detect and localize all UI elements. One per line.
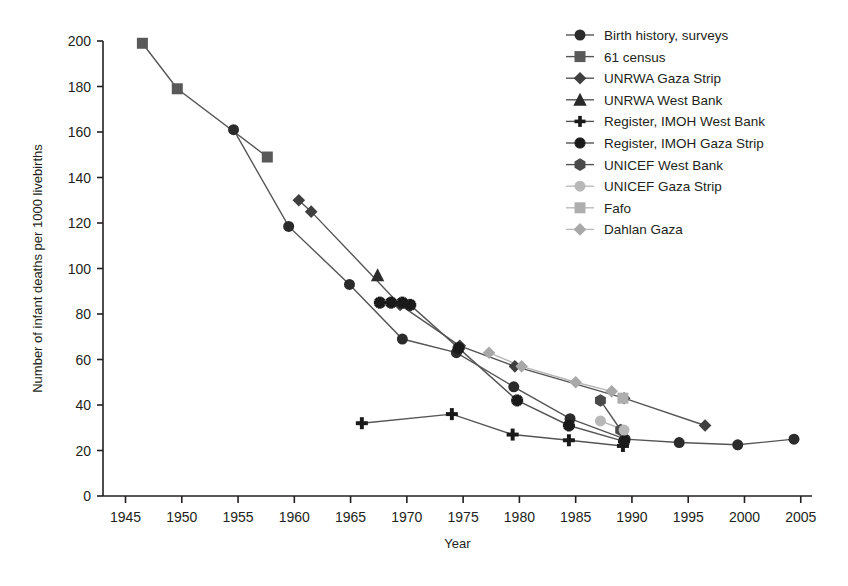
marker-triangle [371, 268, 384, 281]
y-tick-label: 80 [75, 306, 91, 322]
marker-plus [511, 429, 515, 441]
legend-item[interactable]: Birth history, surveys [566, 28, 729, 43]
x-tick-label: 1970 [391, 509, 422, 525]
marker-square [575, 51, 586, 62]
x-tick-label: 1975 [448, 509, 479, 525]
legend-label: UNICEF Gaza Strip [604, 179, 722, 194]
x-axis-ticks: 1945195019551960196519701975198019851990… [110, 496, 817, 525]
marker-diamond [569, 376, 582, 389]
legend-item[interactable]: UNRWA Gaza Strip [566, 71, 721, 86]
y-tick-label: 40 [75, 397, 91, 413]
marker-circle [508, 381, 519, 392]
marker-plus [360, 417, 364, 429]
marker-square [172, 83, 183, 94]
series-markers-9 [617, 393, 628, 404]
marker-circle [344, 279, 355, 290]
marker-circle [283, 221, 294, 232]
y-tick-label: 60 [75, 352, 91, 368]
legend-item[interactable]: Fafo [566, 201, 631, 216]
y-axis-title: Number of infant deaths per 1000 livebir… [30, 144, 45, 393]
series-markers-4 [371, 268, 384, 281]
x-tick-label: 1950 [166, 509, 197, 525]
marker-hexagon [575, 158, 586, 171]
infant-mortality-scatter-chart: 0204060801001201401601802001945195019551… [0, 0, 848, 586]
legend-item[interactable]: UNRWA West Bank [566, 93, 723, 108]
x-tick-label: 1945 [110, 509, 141, 525]
legend-label: Birth history, surveys [604, 28, 729, 43]
marker-square [617, 393, 628, 404]
legend-label: UNRWA Gaza Strip [604, 71, 721, 86]
series-markers-6 [374, 297, 630, 448]
y-tick-label: 160 [68, 124, 92, 140]
series-line-10 [489, 353, 612, 392]
chart-figure: 0204060801001201401601802001945195019551… [0, 0, 848, 586]
marker-circle [397, 334, 408, 345]
x-tick-label: 1980 [504, 509, 535, 525]
x-tick-label: 1960 [279, 509, 310, 525]
y-tick-label: 100 [68, 261, 92, 277]
series-polyline [380, 303, 624, 442]
x-tick-label: 1985 [560, 509, 591, 525]
marker-plus [578, 116, 582, 127]
x-tick-label: 1965 [335, 509, 366, 525]
marker-square [137, 38, 148, 49]
marker-circle [228, 124, 239, 135]
x-tick-label: 1990 [616, 509, 647, 525]
series-polyline [142, 43, 267, 157]
y-tick-label: 20 [75, 443, 91, 459]
y-tick-label: 180 [68, 79, 92, 95]
legend-item[interactable]: Register, IMOH West Bank [566, 114, 765, 129]
series-markers-2 [137, 38, 273, 163]
legend-item[interactable]: Register, IMOH Gaza Strip [566, 136, 764, 151]
x-tick-label: 1995 [673, 509, 704, 525]
y-axis-ticks: 020406080100120140160180200 [68, 33, 103, 504]
legend-item[interactable]: 61 census [566, 50, 666, 65]
y-tick-label: 120 [68, 215, 92, 231]
marker-diamond [483, 346, 496, 359]
legend-label: Fafo [604, 201, 631, 216]
marker-diamond [574, 223, 587, 236]
marker-circle [575, 181, 586, 192]
x-tick-label: 2005 [785, 509, 816, 525]
marker-circle [674, 437, 685, 448]
series-markers-5 [356, 408, 629, 452]
marker-diamond [574, 72, 587, 85]
y-tick-label: 200 [68, 33, 92, 49]
legend-label: Register, IMOH Gaza Strip [604, 136, 764, 151]
marker-circle [732, 439, 743, 450]
marker-plus [567, 434, 571, 446]
legend-item[interactable]: Dahlan Gaza [566, 222, 683, 237]
series-polyline [489, 353, 612, 392]
marker-square [262, 152, 273, 163]
marker-diamond [699, 419, 712, 432]
legend-item[interactable]: UNICEF Gaza Strip [566, 179, 722, 194]
marker-square [575, 202, 586, 213]
x-tick-label: 1955 [222, 509, 253, 525]
legend-label: UNICEF West Bank [604, 158, 723, 173]
y-tick-label: 140 [68, 170, 92, 186]
marker-diamond [515, 360, 528, 373]
marker-circle [595, 415, 606, 426]
marker-circle [619, 425, 630, 436]
x-tick-label: 2000 [729, 509, 760, 525]
chart-legend: Birth history, surveys61 censusUNRWA Gaz… [566, 28, 765, 237]
marker-circle [788, 434, 799, 445]
y-tick-label: 0 [83, 488, 91, 504]
x-axis-title: Year [444, 536, 471, 551]
marker-circle [575, 30, 586, 41]
legend-item[interactable]: UNICEF West Bank [566, 158, 723, 173]
series-line-2 [142, 43, 267, 157]
legend-label: 61 census [604, 50, 666, 65]
legend-label: UNRWA West Bank [604, 93, 723, 108]
legend-label: Dahlan Gaza [604, 222, 683, 237]
series-line-6 [380, 303, 624, 442]
legend-label: Register, IMOH West Bank [604, 114, 765, 129]
marker-plus [450, 408, 454, 420]
